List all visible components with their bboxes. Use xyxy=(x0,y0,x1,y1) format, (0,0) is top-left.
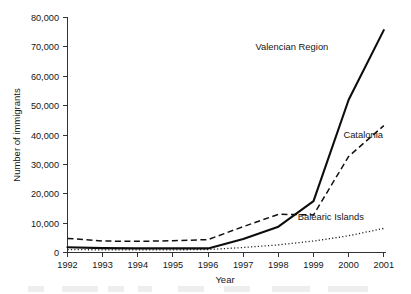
x-tick-label-1996: 1996 xyxy=(198,260,218,270)
series-line-balearic-islands xyxy=(68,228,384,249)
x-tick-label-1992: 1992 xyxy=(57,260,77,270)
y-tick-label-70000: 70,000 xyxy=(31,42,59,52)
line-chart: 80,000 70,000 60,000 50,000 40,000 30,00… xyxy=(0,0,411,294)
x-tick-label-1999: 1999 xyxy=(303,260,323,270)
series-annotation-catalonia: Catalonia xyxy=(343,129,383,140)
x-tick-label-2001: 2001 xyxy=(374,260,394,270)
series-line-catalonia xyxy=(68,126,384,242)
x-tick-label-1993: 1993 xyxy=(92,260,112,270)
series-annotation-valencian-region: Valencian Region xyxy=(256,41,329,52)
y-tick-label-50000: 50,000 xyxy=(31,101,59,111)
series-annotation-balearic-islands: Balearic Islands xyxy=(298,211,364,222)
x-tick-marks xyxy=(68,253,384,258)
y-tick-marks xyxy=(63,18,68,253)
x-tick-label-1995: 1995 xyxy=(163,260,183,270)
x-tick-label-2000: 2000 xyxy=(338,260,358,270)
x-tick-label-1998: 1998 xyxy=(268,260,288,270)
y-tick-label-0: 0 xyxy=(54,248,59,258)
y-tick-label-20000: 20,000 xyxy=(31,189,59,199)
y-axis-title: Number of immigrants xyxy=(11,88,22,182)
y-tick-label-30000: 30,000 xyxy=(31,160,59,170)
caption-fragment xyxy=(28,286,368,292)
y-tick-label-60000: 60,000 xyxy=(31,72,59,82)
x-axis-title: Year xyxy=(215,274,234,285)
x-tick-label-1997: 1997 xyxy=(233,260,253,270)
y-tick-label-80000: 80,000 xyxy=(31,13,59,23)
y-tick-label-10000: 10,000 xyxy=(31,219,59,229)
y-tick-label-40000: 40,000 xyxy=(31,131,59,141)
figure-container: 80,000 70,000 60,000 50,000 40,000 30,00… xyxy=(0,0,411,294)
x-tick-label-1994: 1994 xyxy=(128,260,148,270)
